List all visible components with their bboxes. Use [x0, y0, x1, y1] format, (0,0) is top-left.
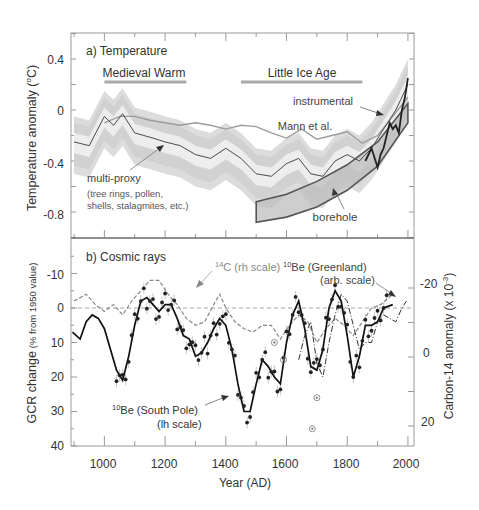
panel-b-title: b) Cosmic rays [86, 250, 166, 264]
ytick-label: -0.4 [43, 157, 64, 171]
xtick-label: 1200 [151, 457, 178, 471]
arrow-head-icon [388, 290, 396, 297]
y2tick-label: 20 [421, 415, 435, 429]
xtick-label: 1800 [333, 457, 360, 471]
y2tick-label: 0 [423, 346, 430, 360]
panel-a-ytick-labels: 0.4 0 -0.4 -0.8 [43, 53, 64, 222]
temperature-cosmic-rays-figure: 0.4 0 -0.4 -0.8 Temperature anomaly (oC)… [0, 0, 479, 510]
xtick-label: 2000 [393, 457, 420, 471]
c14-arrow [200, 271, 212, 284]
multiproxy-label: multi-proxy [87, 172, 141, 184]
be-south-pole-annotation: 10Be (South Pole) [112, 403, 198, 416]
panel-b-ylabel: GCR change(% from 1950 value) [25, 263, 39, 424]
x-axis-label: Year (AD) [219, 476, 271, 490]
ytick-label: 0 [57, 104, 64, 118]
borehole-label: borehole [313, 211, 358, 223]
south-pole-arrow [205, 397, 225, 405]
y2tick-label: -20 [420, 277, 438, 291]
instrumental-label: instrumental [293, 95, 353, 107]
xtick-label: 1400 [212, 457, 239, 471]
ytick-label: 10 [51, 336, 65, 350]
panel-b-y2label: Carbon-14 anomaly (x 10-3) [441, 273, 456, 420]
panel-b-xtick-labels: 1000 1200 1400 1600 1800 2000 [90, 457, 420, 471]
borehole-arrow [336, 193, 344, 209]
be-greenland-annotation: 10Be (Greenland) [283, 260, 367, 273]
be-open-circles [271, 340, 319, 432]
xtick-label: 1600 [272, 457, 299, 471]
xtick-label: 1000 [90, 457, 117, 471]
panel-b-y2tick-labels: -20 0 20 [420, 277, 438, 429]
ytick-label: 0 [57, 301, 64, 315]
panel-a-title: a) Temperature [86, 44, 167, 58]
panel-b-ytick-labels: -10 0 10 20 30 40 [47, 268, 65, 453]
multiproxy-sub2: shells, stalagmites, etc.) [87, 200, 188, 211]
be-south-pole-sub: (lh scale) [157, 418, 202, 430]
be-greenland-sub: (arb. scale) [320, 274, 375, 286]
ytick-label: 20 [51, 370, 65, 384]
mann-label: Mann et al. [278, 120, 332, 132]
multiproxy-sub1: (tree rings, pollen, [87, 188, 163, 199]
ytick-label: 0.4 [47, 53, 64, 67]
panel-a-ylabel: Temperature anomaly (oC) [24, 65, 39, 211]
little-ice-age-label: Little Ice Age [268, 66, 337, 80]
ytick-label: 40 [51, 439, 65, 453]
c14-annotation: 14C (rh scale) [215, 260, 280, 273]
arrow-head-icon [221, 395, 229, 401]
ytick-label: -10 [47, 268, 65, 282]
ytick-label: 30 [51, 404, 65, 418]
medieval-warm-label: Medieval Warm [103, 66, 186, 80]
ytick-label: -0.8 [43, 208, 64, 222]
be-south-pole-line [73, 291, 393, 412]
